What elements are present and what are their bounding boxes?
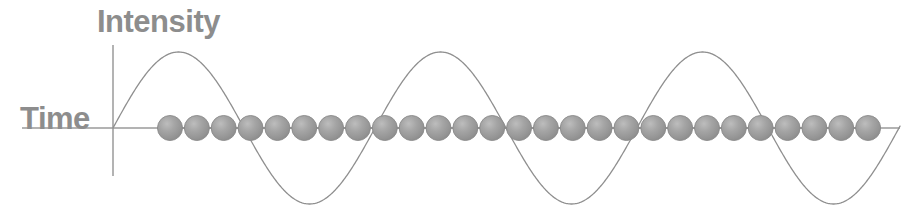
y-axis-label: Intensity <box>97 6 220 37</box>
particle-sphere <box>292 116 317 141</box>
particle-sphere <box>211 116 236 141</box>
particle-sphere <box>721 116 746 141</box>
particle-sphere <box>614 116 639 141</box>
particle-sphere <box>238 116 263 141</box>
particle-sphere <box>748 116 773 141</box>
particle-sphere <box>426 116 451 141</box>
x-axis-label: Time <box>20 103 90 134</box>
particle-sphere <box>399 116 424 141</box>
particle-sphere <box>829 116 854 141</box>
particle-sphere <box>775 116 800 141</box>
particle-sphere <box>668 116 693 141</box>
particle-sphere <box>345 116 370 141</box>
particle-sphere <box>319 116 344 141</box>
particle-sphere <box>856 116 881 141</box>
particle-sphere <box>507 116 532 141</box>
particle-sphere <box>372 116 397 141</box>
particle-sphere <box>453 116 478 141</box>
particle-sphere <box>480 116 505 141</box>
particle-sphere <box>158 116 183 141</box>
wave-diagram-figure: Intensity Time <box>0 0 918 222</box>
particle-sphere <box>265 116 290 141</box>
particle-sphere <box>587 116 612 141</box>
particle-sphere <box>695 116 720 141</box>
particle-sphere <box>533 116 558 141</box>
particle-sphere <box>184 116 209 141</box>
particle-sphere <box>641 116 666 141</box>
particle-sphere <box>802 116 827 141</box>
particle-sphere <box>560 116 585 141</box>
